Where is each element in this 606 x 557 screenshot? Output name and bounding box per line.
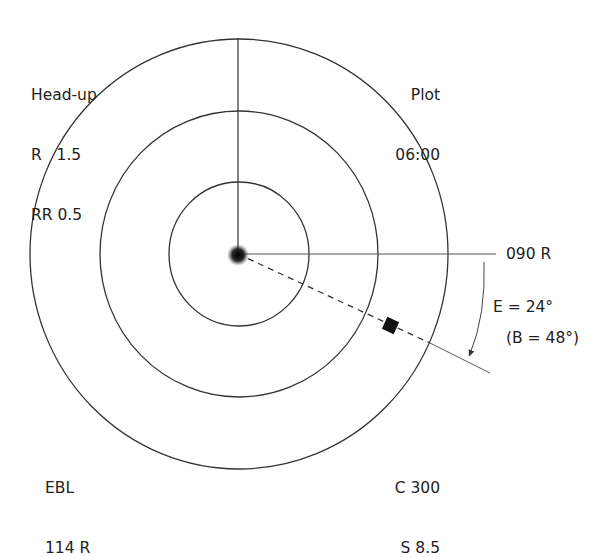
angle-arc-arrow bbox=[470, 262, 484, 354]
bearing-angle-label: (B = 48°) bbox=[506, 328, 579, 348]
range-label: R 1.5 bbox=[31, 145, 97, 165]
ebl-extension-line bbox=[430, 343, 490, 373]
error-angle-label: E = 24° bbox=[493, 297, 553, 317]
plot-title: Plot bbox=[380, 85, 440, 105]
own-ship-icon bbox=[227, 244, 249, 266]
target-echo-icon bbox=[382, 317, 399, 334]
own-ship-label-block: C 300 S 8.5 bbox=[380, 438, 440, 557]
ebl-title: EBL bbox=[45, 478, 90, 498]
course-label: C 300 bbox=[380, 478, 440, 498]
range-rings-label: RR 0.5 bbox=[31, 205, 97, 225]
speed-label: S 8.5 bbox=[380, 538, 440, 557]
ebl-label-block: EBL 114 R bbox=[45, 438, 90, 557]
bearing-reference-label: 090 R bbox=[506, 244, 551, 264]
plot-label-block: Plot 06:00 bbox=[380, 45, 440, 185]
mode-label-block: Head-up R 1.5 RR 0.5 bbox=[31, 45, 97, 245]
ebl-value: 114 R bbox=[45, 538, 90, 557]
plot-time: 06:00 bbox=[380, 145, 440, 165]
ebl-dashed-line bbox=[238, 254, 430, 343]
orientation-label: Head-up bbox=[31, 85, 97, 105]
